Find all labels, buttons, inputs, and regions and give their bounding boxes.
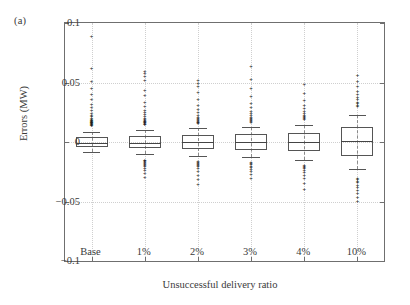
boxplot-outlier: + — [249, 175, 253, 181]
boxplot-outlier: + — [302, 81, 306, 87]
boxplot-whisker-cap — [242, 127, 260, 128]
y-gridline — [65, 83, 384, 84]
boxplot-outlier: + — [196, 181, 200, 187]
boxplot-whisker-cap — [295, 160, 313, 161]
y-gridline — [65, 142, 384, 143]
boxplot-outlier: + — [90, 96, 94, 102]
boxplot-outlier: + — [249, 93, 253, 99]
y-gridline — [65, 202, 384, 203]
boxplot-outlier: + — [143, 99, 147, 105]
boxplot-whisker-cap — [295, 125, 313, 126]
panel-label: (a) — [14, 15, 26, 26]
figure-container: (a) Errors (MW) Unsuccessful delivery ra… — [0, 0, 410, 305]
boxplot-whisker-cap — [83, 152, 101, 153]
x-tick-label: 4% — [273, 246, 333, 257]
boxplot-outlier: + — [196, 102, 200, 108]
x-tick-label: 3% — [220, 246, 280, 257]
y-tick-mark — [380, 261, 384, 262]
boxplot-median — [76, 143, 108, 144]
boxplot-outlier: + — [302, 186, 306, 192]
boxplot-outlier: + — [90, 85, 94, 91]
boxplot-outlier: + — [356, 83, 360, 89]
boxplot-median — [288, 142, 320, 143]
boxplot-whisker-cap — [349, 169, 367, 170]
boxplot-whisker-cap — [189, 156, 207, 157]
y-tick-mark — [380, 202, 384, 203]
boxplot-outlier: + — [143, 174, 147, 180]
boxplot-outlier: + — [249, 76, 253, 82]
y-tick-mark — [380, 142, 384, 143]
boxplot-outlier: + — [90, 33, 94, 39]
x-tick-mark — [198, 257, 199, 261]
boxplot-outlier: + — [356, 72, 360, 78]
boxplot-outlier: + — [90, 91, 94, 97]
x-tick-mark — [304, 257, 305, 261]
x-tick-mark — [92, 257, 93, 261]
boxplot-outlier: + — [143, 68, 147, 74]
boxplot-whisker-cap — [189, 128, 207, 129]
x-tick-label: Base — [61, 246, 121, 257]
boxplot-outlier: + — [90, 65, 94, 71]
boxplot-outlier: + — [196, 77, 200, 83]
boxplot-outlier: + — [356, 198, 360, 204]
x-tick-label: 10% — [326, 246, 386, 257]
boxplot-whisker-cap — [83, 132, 101, 133]
boxplot-outlier: + — [302, 97, 306, 103]
boxplot-median — [182, 142, 214, 143]
x-tick-mark — [357, 257, 358, 261]
x-tick-label: 1% — [114, 246, 174, 257]
boxplot-whisker-cap — [136, 130, 154, 131]
boxplot-outlier: + — [90, 78, 94, 84]
y-tick-mark — [380, 23, 384, 24]
boxplot-outlier: + — [143, 87, 147, 93]
x-tick-label: 2% — [167, 246, 227, 257]
y-tick-label: 0 — [34, 136, 80, 147]
boxplot-median — [341, 141, 373, 142]
boxplot-outlier: + — [356, 78, 360, 84]
x-tick-mark — [251, 257, 252, 261]
plot-area: ++++++++++++++++++++++++++++++++++++++++… — [64, 22, 385, 262]
boxplot-whisker-cap — [242, 157, 260, 158]
x-axis-label: Unsuccessful delivery ratio — [55, 279, 385, 290]
y-axis-label: Errors (MW) — [18, 59, 29, 169]
x-tick-mark — [145, 257, 146, 261]
boxplot-outlier: + — [249, 85, 253, 91]
boxplot-median — [129, 143, 161, 144]
y-tick-label: 0.1 — [34, 17, 80, 28]
boxplot-median — [235, 142, 267, 143]
boxplot-outlier: + — [249, 63, 253, 69]
y-tick-label: −0.05 — [34, 195, 80, 206]
y-tick-label: 0.05 — [34, 76, 80, 87]
boxplot-outlier: + — [302, 90, 306, 96]
boxplot-outlier: + — [196, 96, 200, 102]
boxplot-outlier: + — [143, 92, 147, 98]
boxplot-outlier: + — [196, 89, 200, 95]
boxplot-outlier: + — [249, 100, 253, 106]
y-tick-mark — [380, 83, 384, 84]
boxplot-whisker-cap — [136, 154, 154, 155]
boxplot-whisker-cap — [349, 115, 367, 116]
